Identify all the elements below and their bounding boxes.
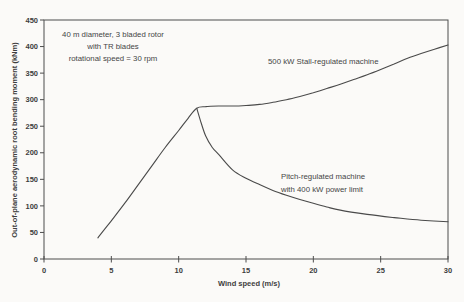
stall-curve-label: 500 kW Stall-regulated machine: [268, 56, 379, 68]
x-tick-label: 5: [109, 266, 113, 275]
pitch-curve-label-line-2: with 400 kW power limit: [281, 183, 365, 196]
rotor-annotation: 40 m diameter, 3 bladed rotor with TR bl…: [40, 29, 186, 65]
y-tick-label: 400: [25, 42, 38, 51]
x-tick-label: 25: [376, 266, 384, 275]
data-curves: [98, 45, 448, 238]
stall-regulated-curve: [98, 45, 448, 238]
y-tick-label: 0: [34, 255, 38, 264]
pitch-curve-label-line-1: Pitch-regulated machine: [281, 170, 365, 183]
pitch-curve-label: Pitch-regulated machine with 400 kW powe…: [281, 170, 365, 196]
y-tick-label: 200: [25, 148, 38, 157]
stall-curve-label-line-1: 500 kW Stall-regulated machine: [268, 56, 379, 68]
x-tick-label: 30: [444, 266, 452, 275]
rotor-annotation-line-2: with TR blades: [40, 41, 186, 53]
wind-turbine-load-chart: 051015202530050100150200250300350400450 …: [0, 0, 464, 302]
y-tick-label: 450: [25, 16, 38, 25]
y-tick-label: 250: [25, 122, 38, 131]
pitch-regulated-curve: [197, 108, 448, 222]
x-tick-label: 15: [242, 266, 250, 275]
y-axis-title: Out-of-plane aerodynamic root bending mo…: [10, 42, 19, 237]
y-tick-label: 100: [25, 202, 38, 211]
y-tick-label: 50: [30, 228, 38, 237]
rotor-annotation-line-1: 40 m diameter, 3 bladed rotor: [40, 29, 186, 41]
x-axis-title: Wind speed (m/s): [218, 279, 280, 288]
y-tick-label: 300: [25, 95, 38, 104]
rotor-annotation-line-3: rotational speed = 30 rpm: [40, 53, 186, 65]
y-tick-label: 150: [25, 175, 38, 184]
y-tick-label: 350: [25, 69, 38, 78]
x-tick-label: 20: [309, 266, 317, 275]
x-tick-label: 10: [174, 266, 182, 275]
x-tick-label: 0: [42, 266, 46, 275]
